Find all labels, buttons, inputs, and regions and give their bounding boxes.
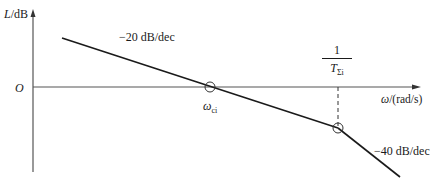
y-axis-label-unit: /dB — [11, 7, 28, 21]
x-axis-arrow-icon — [412, 85, 421, 90]
y-axis-label: L/dB — [4, 8, 28, 20]
x-axis-label: ω/(rad/s) — [381, 94, 422, 106]
y-axis-arrow-icon — [31, 9, 36, 17]
origin-label: O — [15, 82, 24, 94]
x-axis-label-unit: /(rad/s) — [389, 93, 422, 105]
y-axis-label-var: L — [4, 7, 11, 21]
crossover-frequency-label: ωci — [203, 100, 217, 115]
x-axis-label-var: ω — [381, 93, 389, 105]
slope-label-minus20: −20 dB/dec — [119, 31, 175, 43]
slope-label-minus40: −40 dB/dec — [374, 145, 430, 157]
asymptote-segment-minus20 — [62, 38, 338, 128]
corner-frequency-denominator: TΣi — [330, 59, 344, 77]
corner-frequency-label: 1 TΣi — [322, 44, 352, 77]
corner-frequency-numerator: 1 — [328, 44, 346, 58]
